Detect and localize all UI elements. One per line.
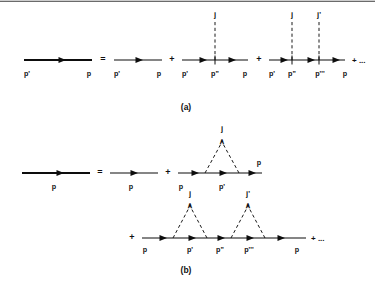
panel-caption-a: (a) bbox=[181, 102, 192, 112]
plus-operator: + bbox=[129, 232, 134, 242]
series-ellipsis: + ... bbox=[311, 234, 325, 243]
momentum-label-p: p bbox=[343, 69, 348, 78]
momentum-label-p-right: p bbox=[295, 245, 300, 254]
momentum-label-p: p bbox=[52, 182, 57, 191]
momentum-label-p-prime: p' bbox=[114, 69, 120, 78]
momentum-label-p-left: p bbox=[179, 182, 184, 191]
momentum-label-p: p bbox=[243, 69, 248, 78]
momentum-label-p-double-prime: p" bbox=[211, 69, 219, 78]
momentum-label-p-double-prime: p" bbox=[216, 245, 224, 254]
source-label-j: j bbox=[220, 124, 223, 133]
source-label-j-prime: j' bbox=[245, 189, 250, 198]
momentum-label-p-prime: p' bbox=[219, 182, 225, 191]
momentum-label-p-prime: p' bbox=[24, 69, 30, 78]
momentum-label-p-prime: p' bbox=[269, 69, 275, 78]
equals-operator: = bbox=[100, 54, 105, 64]
momentum-label-p-prime: p' bbox=[182, 69, 188, 78]
plus-operator: + bbox=[169, 54, 174, 64]
momentum-label-p-triple-prime: p''' bbox=[315, 69, 325, 78]
loop-apex-marker-icon: ∧ bbox=[219, 137, 225, 146]
source-label-j: j bbox=[213, 10, 216, 19]
momentum-label-p-prime: p' bbox=[187, 245, 193, 254]
source-label-j: j bbox=[188, 189, 191, 198]
momentum-label-p-left: p bbox=[143, 245, 148, 254]
series-ellipsis: + ... bbox=[352, 56, 366, 65]
panel-caption-b: (b) bbox=[181, 265, 192, 275]
figure-container: p' p = p' p + j p' p" p + bbox=[0, 0, 375, 288]
momentum-label-p: p bbox=[87, 69, 92, 78]
source-label-j: j bbox=[290, 10, 293, 19]
feynman-diagram-figure: p' p = p' p + j p' p" p + bbox=[0, 0, 375, 288]
source-label-j-prime: j' bbox=[316, 10, 321, 19]
momentum-label-p-right: p bbox=[257, 158, 262, 167]
loop-apex-marker-icon: ∧ bbox=[245, 201, 251, 210]
plus-operator: + bbox=[256, 54, 261, 64]
plus-operator: + bbox=[165, 167, 170, 177]
equals-operator: = bbox=[97, 167, 102, 177]
momentum-label-p: p bbox=[129, 182, 134, 191]
momentum-label-p-triple-prime: p''' bbox=[244, 245, 254, 254]
momentum-label-p-double-prime: p" bbox=[288, 69, 296, 78]
momentum-label-p: p bbox=[157, 69, 162, 78]
loop-apex-marker-icon: ∧ bbox=[187, 201, 193, 210]
